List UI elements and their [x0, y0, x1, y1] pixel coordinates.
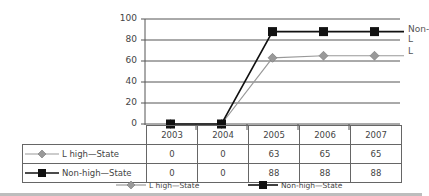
table-year-header: 2006	[300, 126, 351, 145]
table-cell: 0	[147, 145, 198, 164]
table-corner	[23, 126, 147, 145]
bottom-divider	[0, 193, 422, 196]
table-row: Non-high—State 0 0 88 88 88	[23, 164, 402, 183]
table-cell: 65	[300, 145, 351, 164]
table-cell: 0	[198, 164, 249, 183]
table-header-row: 2003 2004 2005 2006 2007	[23, 126, 402, 145]
diamond-marker-icon	[116, 180, 146, 190]
square-marker-icon	[248, 180, 278, 190]
table-cell: 65	[351, 145, 402, 164]
table-cell: 63	[249, 145, 300, 164]
table-row: L high—State 0 0 63 65 65	[23, 145, 402, 164]
table-year-header: 2007	[351, 126, 402, 145]
legend-item-non-high: Non-high—State	[248, 180, 342, 190]
table-cell: 88	[351, 164, 402, 183]
series-end-label-l: L	[408, 46, 413, 56]
table-row-label: L high—State	[23, 145, 147, 164]
table-year-header: 2005	[249, 126, 300, 145]
table-year-header: 2004	[198, 126, 249, 145]
axes	[145, 19, 349, 130]
legend-label: Non-high—State	[281, 181, 342, 190]
series-lines	[166, 27, 404, 128]
legend-label: L high—State	[149, 181, 199, 190]
table-cell: 0	[198, 145, 249, 164]
series-end-label-non-l: Non-L	[408, 24, 429, 44]
data-table: 2003 2004 2005 2006 2007 L high—State 0 …	[22, 125, 402, 183]
square-marker-icon	[25, 168, 59, 178]
table-row-label-text: L high—State	[62, 149, 119, 159]
table-row-label-text: Non-high—State	[62, 168, 132, 178]
line-chart-plot	[0, 0, 422, 130]
legend-item-l-high: L high—State	[116, 180, 199, 190]
table-year-header: 2003	[147, 126, 198, 145]
diamond-marker-icon	[25, 149, 59, 159]
